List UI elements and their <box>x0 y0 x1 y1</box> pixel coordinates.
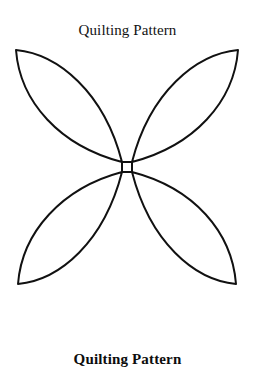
page-title: Quilting Pattern <box>0 22 255 39</box>
petal-group <box>16 50 238 284</box>
petal-bottom-left <box>18 172 122 284</box>
center-square <box>122 162 132 172</box>
petal-top-right <box>132 50 238 162</box>
petal-top-left <box>16 50 122 162</box>
quilting-pattern-svg <box>0 42 255 294</box>
pattern-caption: Quilting Pattern <box>0 350 255 368</box>
pattern-page: Quilting Pattern Quilting Pattern <box>0 0 255 381</box>
quilting-pattern-figure <box>0 42 255 294</box>
petal-bottom-right <box>132 172 236 284</box>
